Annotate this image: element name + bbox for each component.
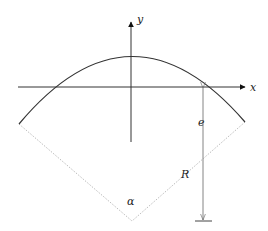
radius-label: R: [180, 168, 189, 181]
arc-diagram: y x e R α: [0, 0, 268, 231]
distance-label: e: [198, 116, 205, 129]
y-axis-label: y: [136, 13, 144, 26]
arc-curve: [19, 56, 245, 124]
angle-label: α: [127, 195, 135, 208]
radius-left-line: [19, 124, 132, 221]
x-axis-label: x: [250, 81, 257, 94]
